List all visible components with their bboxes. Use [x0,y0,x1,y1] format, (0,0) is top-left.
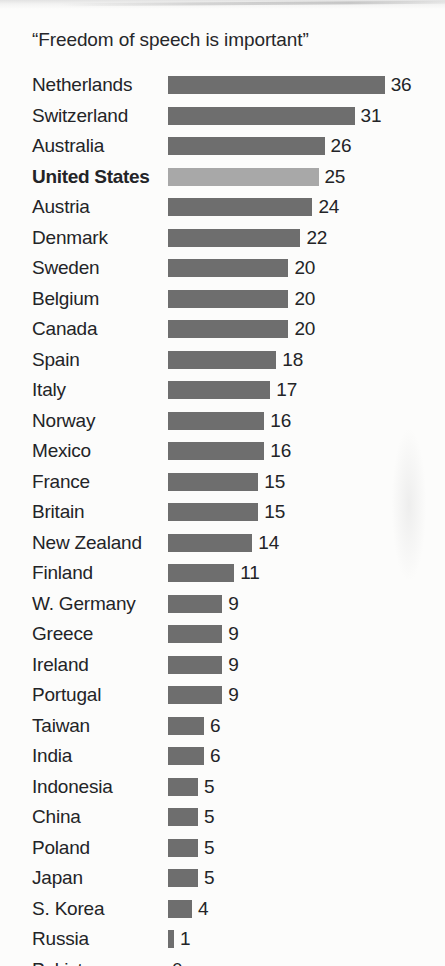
bar-value-label: 5 [204,834,214,862]
chart-figure: “Freedom of speech is important” Netherl… [0,0,445,966]
category-label: Britain [32,498,84,526]
bar-row: New Zealand14 [0,529,445,557]
category-label: Canada [32,315,97,343]
bar-row: Austria24 [0,193,445,221]
category-label: Norway [32,407,95,435]
bar-value-label: 20 [294,315,315,343]
category-label: Australia [32,132,104,160]
bar-row: Norway16 [0,407,445,435]
bar [168,839,198,857]
category-label: Finland [32,559,93,587]
bar-row: Pakistan0 [0,956,445,966]
bar-value-label: 9 [228,681,238,709]
bar [168,412,264,430]
category-label: Austria [32,193,90,221]
category-label: Ireland [32,651,89,679]
bar-value-label: 5 [204,773,214,801]
category-label: France [32,468,90,496]
bar [168,808,198,826]
bar-value-label: 22 [306,224,327,252]
bar [168,198,312,216]
bar-row: India6 [0,742,445,770]
category-label: Poland [32,834,90,862]
category-label: Russia [32,925,89,953]
bar-value-label: 31 [361,102,382,130]
bar-row: Netherlands36 [0,71,445,99]
bar-value-label: 15 [264,468,285,496]
category-label: S. Korea [32,895,104,923]
bar [168,107,355,125]
bar [168,442,264,460]
bar-value-label: 4 [198,895,208,923]
bar-row: Britain15 [0,498,445,526]
bar-row: Belgium20 [0,285,445,313]
bar-row: Denmark22 [0,224,445,252]
category-label: Indonesia [32,773,113,801]
category-label: India [32,742,72,770]
bar-row: Poland5 [0,834,445,862]
bar-row: Taiwan6 [0,712,445,740]
bar-value-label: 25 [325,163,346,191]
bar-row: Indonesia5 [0,773,445,801]
bar [168,595,222,613]
category-label: Portugal [32,681,101,709]
bar-row: United States25 [0,163,445,191]
bar-value-label: 20 [294,254,315,282]
bar-value-label: 9 [228,590,238,618]
bar-value-label: 11 [240,559,259,587]
bar-value-label: 18 [282,346,303,374]
category-label: Mexico [32,437,91,465]
bar-row: Switzerland31 [0,102,445,130]
bar-row: France15 [0,468,445,496]
bar-row: Portugal9 [0,681,445,709]
bar-row: Russia1 [0,925,445,953]
category-label: Belgium [32,285,99,313]
bar [168,229,300,247]
bar-value-label: 9 [228,620,238,648]
bar-row: W. Germany9 [0,590,445,618]
bar-value-label: 17 [276,376,297,404]
bar-row: Japan5 [0,864,445,892]
bar [168,137,325,155]
category-label: W. Germany [32,590,136,618]
bar-value-label: 36 [391,71,412,99]
bar-value-label: 5 [204,803,214,831]
bar [168,564,234,582]
bar [168,351,276,369]
bar [168,503,258,521]
bar-row: Sweden20 [0,254,445,282]
bar-value-label: 16 [270,407,291,435]
bar [168,259,288,277]
bar-value-label: 0 [172,956,182,966]
bar [168,747,204,765]
bar-value-label: 9 [228,651,238,679]
category-label: Denmark [32,224,108,252]
bar-value-label: 6 [210,712,220,740]
bar [168,869,198,887]
bar [168,290,288,308]
category-label: Italy [32,376,66,404]
bar [168,381,270,399]
bar-row: Ireland9 [0,651,445,679]
bar-value-label: 5 [204,864,214,892]
category-label: Switzerland [32,102,128,130]
category-label: Pakistan [32,956,103,966]
bar-row: Finland11 [0,559,445,587]
category-label: Japan [32,864,83,892]
bar [168,534,252,552]
bar-value-label: 16 [270,437,291,465]
category-label: Sweden [32,254,99,282]
bar [168,473,258,491]
bar [168,76,385,94]
bar-value-label: 14 [258,529,279,557]
bar-row: Italy17 [0,376,445,404]
category-label: Spain [32,346,80,374]
bar-row: China5 [0,803,445,831]
bar-row: Canada20 [0,315,445,343]
bar [168,930,174,948]
bar [168,320,288,338]
category-label: United States [32,163,150,191]
bar-value-label: 26 [331,132,352,160]
bar-value-label: 20 [294,285,315,313]
bar-row: Spain18 [0,346,445,374]
